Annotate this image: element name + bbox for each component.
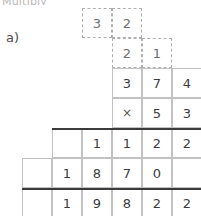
- multiplicand-row-cell-0: 3: [112, 68, 142, 98]
- partial-product-1-cell-3: 2: [142, 128, 172, 158]
- partial-product-2-cell-1: 1: [52, 158, 82, 188]
- total-row-cell-0: [22, 188, 52, 216]
- multiplier-row-cell-0: ×: [112, 98, 142, 128]
- multiplication-worksheet: 3221374×531122187019822: [0, 0, 201, 216]
- carry-row-top-cell-1: 2: [112, 8, 142, 38]
- multiplier-row-cell-1: 5: [142, 98, 172, 128]
- partial-product-2-cell-4: 0: [142, 158, 172, 188]
- total-row-cell-3: 8: [112, 188, 142, 216]
- partial-product-1-cell-2: 1: [112, 128, 142, 158]
- multiplier-row-cell-2: 3: [172, 98, 201, 128]
- rule-above-partials: [52, 128, 201, 130]
- total-row-cell-2: 9: [82, 188, 112, 216]
- multiplicand-row-cell-2: 4: [172, 68, 201, 98]
- total-row-cell-4: 2: [142, 188, 172, 216]
- partial-product-2-cell-5: [172, 158, 201, 188]
- partial-product-2-cell-0: [22, 158, 52, 188]
- multiplicand-row-cell-1: 7: [142, 68, 172, 98]
- carry-row-second-cell-1: 1: [142, 38, 172, 68]
- partial-product-1-cell-0: [52, 128, 82, 158]
- partial-product-2-cell-2: 8: [82, 158, 112, 188]
- partial-product-2-cell-3: 7: [112, 158, 142, 188]
- carry-row-top-cell-0: 3: [82, 8, 112, 38]
- partial-product-1-cell-4: 2: [172, 128, 201, 158]
- rule-above-total: [22, 188, 201, 190]
- partial-product-1-cell-1: 1: [82, 128, 112, 158]
- carry-row-second-cell-0: 2: [112, 38, 142, 68]
- total-row-cell-5: 2: [172, 188, 201, 216]
- total-row-cell-1: 1: [52, 188, 82, 216]
